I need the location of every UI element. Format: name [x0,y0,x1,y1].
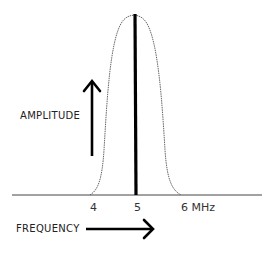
tick-label-4: 4 [90,201,97,214]
frequency-amplitude-diagram: 4 5 6 MHz AMPLITUDE FREQUENCY [0,0,265,253]
tick-label-5: 5 [134,201,141,214]
tick-label-6-mhz: 6 MHz [181,201,215,214]
amplitude-arrow-icon [84,81,100,156]
amplitude-label: AMPLITUDE [20,110,80,121]
carrier-line [135,14,136,195]
frequency-label: FREQUENCY [16,223,80,234]
frequency-arrow-icon [86,220,153,238]
